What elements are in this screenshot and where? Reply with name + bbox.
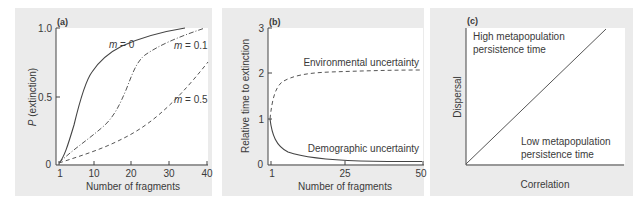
y-axis-label-c: Dispersal xyxy=(452,76,463,118)
label-m01: m = 0.1 xyxy=(174,40,208,51)
x-tick-b: 1 xyxy=(269,168,275,179)
panel-label-c: (c) xyxy=(467,16,478,26)
label-low-1: Low metapopulation xyxy=(521,136,611,147)
label-environmental: Environmental uncertainty xyxy=(303,57,419,68)
chart-c: (c) High metapopulation persistence time… xyxy=(452,16,625,190)
x-tick-b: 50 xyxy=(415,168,427,179)
x-tick-a: 1 xyxy=(57,168,63,179)
label-m0: m = 0 xyxy=(109,39,135,50)
y-tick-b: 1 xyxy=(258,114,264,125)
x-tick-a: 40 xyxy=(201,168,213,179)
label-demographic: Demographic uncertainty xyxy=(308,143,419,154)
y-tick-b: 3 xyxy=(258,23,264,34)
x-axis-label-b: Number of fragments xyxy=(298,181,392,192)
x-tick-b: 25 xyxy=(339,168,351,179)
y-tick-a: 0 xyxy=(45,159,51,170)
panel-label-b: (b) xyxy=(269,17,281,27)
y-tick-a: 0.5 xyxy=(38,92,52,103)
figure: (a) 1.0 0.5 0 1 10 20 30 40 Number of fr… xyxy=(0,0,644,204)
label-high-1: High metapopulation xyxy=(473,31,565,42)
y-tick-b: 0 xyxy=(257,159,263,170)
x-tick-a: 30 xyxy=(163,168,175,179)
y-axis-label-a: P (extinction) xyxy=(27,68,38,126)
chart-a: (a) 1.0 0.5 0 1 10 20 30 40 Number of fr… xyxy=(27,17,213,192)
x-tick-a: 20 xyxy=(125,168,137,179)
label-low-2: persistence time xyxy=(521,149,594,160)
x-axis-label-a: Number of fragments xyxy=(86,181,180,192)
x-axis-label-c: Correlation xyxy=(521,179,570,190)
chart-b: (b) 3 2 1 0 1 25 50 Number of fragments … xyxy=(240,17,427,192)
label-high-2: persistence time xyxy=(473,44,546,55)
y-axis-label-b: Relative time to extinction xyxy=(240,39,251,153)
x-tick-a: 10 xyxy=(88,168,100,179)
y-tick-b: 2 xyxy=(258,68,264,79)
y-tick-a: 1.0 xyxy=(38,23,52,34)
label-m05: m = 0.5 xyxy=(174,94,208,105)
panel-label-a: (a) xyxy=(57,17,68,27)
